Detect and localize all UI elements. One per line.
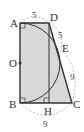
label-a: A [10,17,18,29]
geometry-diagram: A D E O B H C 5 5 9 9 [0,0,84,132]
length-de: 5 [58,30,63,40]
label-b: B [9,98,16,110]
label-h: H [44,105,52,117]
length-ad: 5 [32,10,37,20]
length-ec: 9 [70,72,75,82]
label-o: O [9,57,17,69]
point-o [19,62,22,65]
label-e: E [62,42,69,54]
trapezoid-abcd [20,23,72,103]
label-d: D [50,11,58,23]
length-bc: 9 [43,119,48,129]
label-c: C [73,98,80,110]
